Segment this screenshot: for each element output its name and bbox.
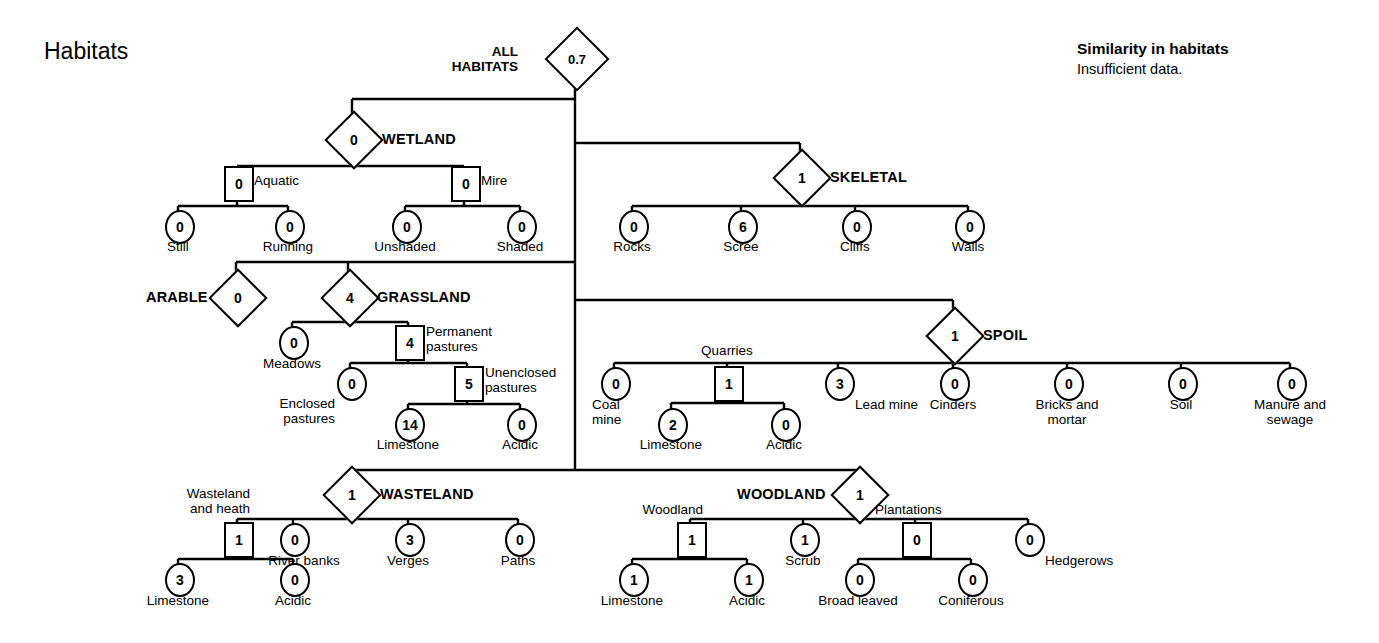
node-aquatic[interactable]: 0 [224,166,254,202]
label-soil: Soil [1136,398,1226,413]
label-enclosed-pastures: Enclosed pastures [237,397,335,427]
label-coniferous: Coniferous [911,594,1031,609]
node-unenclosed-pastures[interactable]: 5 [454,366,484,402]
label-bricks-and-mortar: Bricks and mortar [1007,398,1127,428]
node-coniferous[interactable]: 0 [958,563,988,597]
label-cinders: Cinders [903,398,1003,413]
label-grassland-acidic: Acidic [475,438,565,453]
node-meadows[interactable]: 0 [279,326,309,360]
node-coniferous-value: 0 [969,572,977,588]
label-unshaded: Unshaded [350,240,460,255]
label-woodland-acidic: Acidic [702,594,792,609]
node-manure-and-sewage[interactable]: 0 [1277,367,1307,401]
node-grassland-limestone-value: 14 [402,417,418,433]
node-arable-value: 0 [219,279,257,317]
node-wasteland-limestone[interactable]: 3 [165,563,195,597]
node-woodland-acidic-value: 1 [745,572,753,588]
node-mire[interactable]: 0 [451,166,481,202]
node-rocks-value: 0 [630,219,638,235]
label-wasteland-limestone: Limestone [123,594,233,609]
label-paths: Paths [473,554,563,569]
label-shaded: Shaded [470,240,570,255]
label-coal-mine: Coal mine [592,398,621,428]
node-soil[interactable]: 0 [1168,367,1198,401]
node-paths[interactable]: 0 [505,523,535,557]
node-paths-value: 0 [516,532,524,548]
node-scrub-value: 1 [801,532,809,548]
node-enclosed-pastures-value: 0 [348,376,356,392]
page-title: Habitats [44,38,128,65]
node-soil-value: 0 [1179,376,1187,392]
node-unenclosed-pastures-value: 5 [465,376,473,392]
node-running-value: 0 [286,219,294,235]
node-quarry-limestone-value: 2 [669,417,677,433]
node-coal-mine[interactable]: 0 [601,367,631,401]
node-wetland-value: 0 [335,121,373,159]
category-label-spoil: SPOIL [983,327,1028,343]
node-aquatic-value: 0 [235,176,243,192]
label-aquatic: Aquatic [254,174,299,189]
category-label-wasteland: WASTELAND [380,486,474,502]
node-quarries[interactable]: 1 [714,366,744,402]
label-scree: Scree [691,240,791,255]
node-broad-leaved[interactable]: 0 [845,563,875,597]
label-quarry-acidic: Acidic [739,438,829,453]
node-mire-value: 0 [462,176,470,192]
label-mire: Mire [481,174,507,189]
node-still-value: 0 [176,219,184,235]
node-woodland-limestone-value: 1 [630,572,638,588]
node-bricks-and-mortar-value: 0 [1065,376,1073,392]
node-plantations-value: 0 [913,532,921,548]
label-verges: Verges [358,554,458,569]
side-note-title: Similarity in habitats [1077,40,1229,58]
label-wasteland-and-heath: Wasteland and heath [138,487,250,517]
node-woodland-sub-value: 1 [688,532,696,548]
node-bricks-and-mortar[interactable]: 0 [1054,367,1084,401]
node-cinders[interactable]: 0 [940,367,970,401]
label-quarry-limestone: Limestone [616,438,726,453]
node-skeletal-value: 1 [783,159,821,197]
node-wasteland-and-heath[interactable]: 1 [224,522,254,558]
node-hedgerows[interactable]: 0 [1015,523,1045,557]
label-manure-and-sewage: Manure and sewage [1228,398,1352,428]
node-grassland-value: 4 [331,279,369,317]
category-label-wetland: WETLAND [382,131,456,147]
node-woodland-limestone[interactable]: 1 [619,563,649,597]
category-label-woodland: WOODLAND [737,486,826,502]
node-cliffs-value: 0 [853,219,861,235]
node-coal-mine-value: 0 [612,376,620,392]
label-walls: Walls [918,240,1018,255]
label-cliffs: Cliffs [805,240,905,255]
label-rocks: Rocks [582,240,682,255]
side-note-subtitle: Insufficient data. [1077,61,1182,77]
node-river-banks-value: 0 [291,532,299,548]
node-scree-value: 6 [739,219,747,235]
node-river-banks[interactable]: 0 [280,523,310,557]
label-plantations: Plantations [875,503,942,518]
node-lead-mine[interactable]: 3 [825,367,855,401]
node-verges[interactable]: 3 [395,523,425,557]
node-permanent-pastures[interactable]: 4 [395,325,425,361]
label-running: Running [238,240,338,255]
node-hedgerows-value: 0 [1026,532,1034,548]
label-quarries: Quarries [672,344,782,359]
node-broad-leaved-value: 0 [856,572,864,588]
node-plantations[interactable]: 0 [902,522,932,558]
category-label-arable: ARABLE [146,289,208,305]
label-river-banks: River banks [243,554,365,569]
node-scrub[interactable]: 1 [790,523,820,557]
node-walls-value: 0 [966,219,974,235]
label-unenclosed-pastures: Unenclosed pastures [485,366,556,396]
category-label-grassland: GRASSLAND [377,289,471,305]
node-grassland-acidic-value: 0 [518,417,526,433]
node-woodland-sub[interactable]: 1 [677,522,707,558]
node-verges-value: 3 [406,532,414,548]
node-enclosed-pastures[interactable]: 0 [337,367,367,401]
label-still: Still [138,240,218,255]
habitats-dendrogram-figure: Habitats Similarity in habitats Insuffic… [0,0,1379,643]
category-label-skeletal: SKELETAL [830,169,907,185]
node-spoil-value: 1 [936,317,974,355]
node-wasteland-and-heath-value: 1 [235,532,243,548]
label-permanent-pastures: Permanent pastures [426,325,492,355]
node-meadows-value: 0 [290,335,298,351]
